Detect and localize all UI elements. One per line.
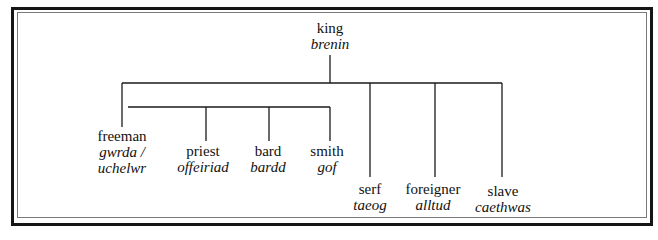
priest-welsh-label: offeiriad (177, 159, 229, 175)
slave-english-label: slave (475, 183, 531, 199)
node-freeman: freeman gwrda / uchelwr (97, 128, 146, 176)
serf-english-label: serf (353, 181, 386, 197)
bard-english-label: bard (250, 143, 285, 159)
freeman-english-label: freeman (97, 128, 146, 144)
slave-welsh-label: caethwas (475, 199, 531, 215)
node-foreigner: foreigner alltud (406, 181, 461, 213)
king-welsh-label: brenin (311, 36, 350, 52)
node-king: king brenin (311, 20, 350, 52)
node-slave: slave caethwas (475, 183, 531, 215)
king-english-label: king (311, 20, 350, 36)
smith-welsh-label: gof (310, 159, 343, 175)
freeman-welsh-label: gwrda / (97, 144, 146, 160)
priest-english-label: priest (177, 143, 229, 159)
bard-welsh-label: bardd (250, 159, 285, 175)
smith-english-label: smith (310, 143, 343, 159)
serf-welsh-label: taeog (353, 197, 386, 213)
foreigner-english-label: foreigner (406, 181, 461, 197)
node-bard: bard bardd (250, 143, 285, 175)
foreigner-welsh-label: alltud (406, 197, 461, 213)
node-priest: priest offeiriad (177, 143, 229, 175)
node-smith: smith gof (310, 143, 343, 175)
freeman-welsh-label-alt: uchelwr (97, 160, 146, 176)
node-serf: serf taeog (353, 181, 386, 213)
